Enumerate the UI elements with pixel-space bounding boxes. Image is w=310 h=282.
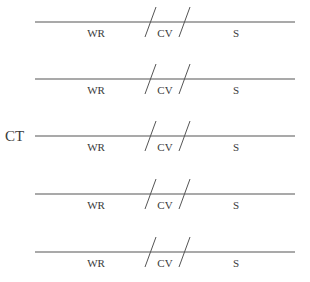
side-label-ct: CT	[5, 128, 24, 144]
segment-label-cv: CV	[157, 84, 172, 96]
segment-label-s: S	[233, 141, 239, 153]
segment-label-cv: CV	[157, 257, 172, 269]
segment-label-s: S	[233, 257, 239, 269]
segment-label-s: S	[233, 199, 239, 211]
segment-label-cv: CV	[157, 199, 172, 211]
timeline-row-3: WR CV S	[35, 121, 295, 153]
segment-label-s: S	[233, 84, 239, 96]
segment-label-wr: WR	[87, 27, 105, 39]
timeline-row-2: WR CV S	[35, 64, 295, 96]
segment-label-wr: WR	[87, 199, 105, 211]
segment-label-s: S	[233, 27, 239, 39]
segment-label-cv: CV	[157, 141, 172, 153]
timeline-row-4: WR CV S	[35, 179, 295, 211]
timeline-diagram: WR CV S WR CV S CT WR CV S WR CV S WR CV	[0, 0, 310, 282]
timeline-row-5: WR CV S	[35, 237, 295, 269]
timeline-row-1: WR CV S	[35, 7, 295, 39]
segment-label-wr: WR	[87, 84, 105, 96]
segment-label-wr: WR	[87, 141, 105, 153]
segment-label-cv: CV	[157, 27, 172, 39]
segment-label-wr: WR	[87, 257, 105, 269]
